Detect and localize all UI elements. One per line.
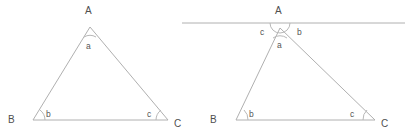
- left-vertex-label-a: A: [85, 6, 92, 16]
- left-angle-label-a: a: [86, 41, 91, 51]
- right-vertex-label-b: B: [210, 115, 217, 125]
- right-angle-label-c-alternate: c: [260, 27, 264, 37]
- left-vertex-label-b: B: [8, 115, 15, 125]
- right-vertex-label-c: C: [381, 119, 388, 129]
- right-triangle-group: [182, 23, 405, 120]
- diagram-canvas: [0, 0, 407, 139]
- left-vertex-label-c: C: [174, 119, 181, 129]
- right-angle-label-c-interior: c: [350, 109, 354, 119]
- geometry-diagram: A B C a b c A B C a b c c b: [0, 0, 407, 139]
- angle-arc-a-left: [84, 35, 96, 37]
- right-angle-label-a: a: [277, 40, 282, 50]
- angle-arc-b-left: [40, 110, 45, 120]
- angle-arc-b-interior: [244, 110, 248, 120]
- right-angle-label-b-interior: b: [249, 109, 254, 119]
- angle-arc-b-alternate: [280, 23, 290, 33]
- left-angle-label-c: c: [147, 109, 151, 119]
- right-vertex-label-a: A: [275, 6, 282, 16]
- left-angle-label-b: b: [46, 109, 51, 119]
- triangle-abc-outline-right: [236, 28, 375, 120]
- left-triangle-group: [33, 27, 168, 120]
- right-angle-label-b-alternate: b: [297, 27, 302, 37]
- triangle-abc-outline: [33, 27, 168, 120]
